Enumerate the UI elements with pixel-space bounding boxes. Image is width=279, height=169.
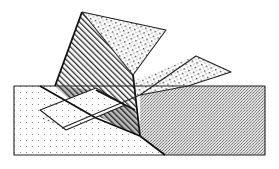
stipple-region — [140, 86, 265, 155]
overlapping-shapes-diagram — [0, 0, 279, 169]
figure-canvas: Overlapping patterned polygons — [0, 0, 279, 169]
